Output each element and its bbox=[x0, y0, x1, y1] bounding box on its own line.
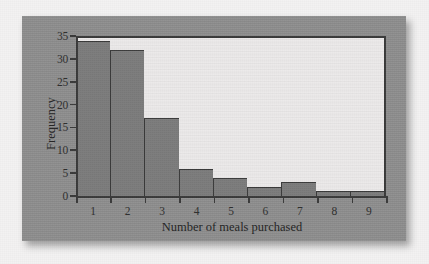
x-axis-tick bbox=[145, 197, 147, 203]
bar-texture bbox=[180, 170, 213, 196]
y-axis-tick-label: 15 bbox=[57, 121, 68, 133]
x-axis-tick bbox=[110, 197, 112, 203]
plot-area bbox=[76, 36, 386, 196]
x-axis-tick-label: 9 bbox=[366, 205, 372, 217]
y-axis-tick-label: 30 bbox=[57, 53, 68, 65]
y-axis-tick bbox=[70, 104, 76, 106]
y-axis-line bbox=[76, 36, 78, 198]
y-axis-tick-label: 25 bbox=[57, 76, 68, 88]
y-axis-tick-label: 0 bbox=[62, 190, 68, 202]
y-axis-tick-label: 35 bbox=[57, 30, 68, 42]
x-axis-tick-label: 5 bbox=[228, 205, 234, 217]
x-axis-title: Number of meals purchased bbox=[76, 220, 388, 235]
y-axis-tick bbox=[70, 127, 76, 129]
bar-texture bbox=[77, 42, 110, 196]
y-axis-tick bbox=[70, 149, 76, 151]
y-axis-tick bbox=[70, 81, 76, 83]
x-axis-tick-label: 4 bbox=[194, 205, 200, 217]
y-axis-tick-label: 10 bbox=[57, 144, 68, 156]
x-axis-tick-label: 8 bbox=[331, 205, 337, 217]
bar bbox=[213, 178, 247, 196]
x-axis-tick-label: 3 bbox=[159, 205, 165, 217]
x-axis-tick bbox=[352, 197, 354, 203]
x-axis-tick bbox=[214, 197, 216, 203]
bar-texture bbox=[214, 179, 247, 196]
y-axis-tick bbox=[70, 172, 76, 174]
bar bbox=[281, 182, 315, 196]
bar-texture bbox=[282, 183, 315, 196]
x-axis-tick bbox=[283, 197, 285, 203]
bar bbox=[76, 41, 110, 196]
x-axis-tick bbox=[179, 197, 181, 203]
bar bbox=[179, 169, 213, 196]
bar-texture bbox=[145, 119, 178, 196]
x-axis-tick bbox=[76, 197, 78, 203]
bar-texture bbox=[248, 188, 281, 196]
bar-texture bbox=[111, 51, 144, 196]
bar bbox=[144, 118, 178, 196]
y-axis-tick-label: 5 bbox=[62, 167, 68, 179]
bar bbox=[110, 50, 144, 196]
bar-series bbox=[76, 38, 384, 196]
y-axis-tick-label: 20 bbox=[57, 99, 68, 111]
x-axis-tick bbox=[317, 197, 319, 203]
x-axis-line bbox=[76, 196, 388, 198]
x-axis-tick bbox=[248, 197, 250, 203]
y-axis-tick bbox=[70, 35, 76, 37]
x-axis-tick-label: 7 bbox=[297, 205, 303, 217]
bar bbox=[247, 187, 281, 196]
x-axis-tick-label: 2 bbox=[125, 205, 131, 217]
x-axis-tick bbox=[386, 197, 388, 203]
figure-panel: Frequency 05101520253035 123456789 Numbe… bbox=[22, 16, 406, 241]
x-axis-tick-label: 1 bbox=[90, 205, 96, 217]
y-axis-tick bbox=[70, 58, 76, 60]
x-axis-tick-label: 6 bbox=[263, 205, 269, 217]
chart-screenshot: Frequency 05101520253035 123456789 Numbe… bbox=[0, 0, 429, 264]
